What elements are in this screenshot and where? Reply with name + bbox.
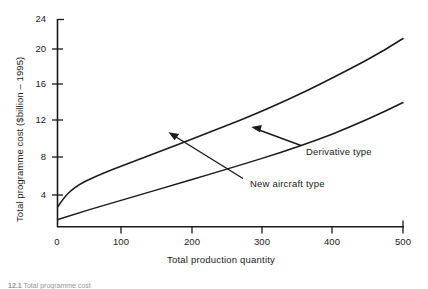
y-tick-label-4: 4: [24, 190, 46, 200]
y-axis-title: Total programme cost ($billion – 1995): [14, 57, 25, 222]
series-label-new-aircraft-type: New aircraft type: [250, 178, 325, 189]
series-line-derivative-type: [58, 103, 403, 220]
y-tick-label-8: 8: [24, 152, 46, 162]
figure-caption-number: 12.1: [8, 282, 22, 289]
x-tick-label-500: 500: [388, 237, 418, 247]
x-tick-label-100: 100: [106, 237, 136, 247]
x-tick-label-0: 0: [42, 237, 72, 247]
figure-caption: 12.1 Total programme cost: [8, 282, 91, 289]
x-tick-label-300: 300: [247, 237, 277, 247]
annotation-arrow-derivative-type: [251, 125, 301, 146]
annotation-arrow-new-aircraft-type: [169, 132, 244, 178]
series-line-new-aircraft-type: [58, 39, 403, 207]
x-axis-title: Total production quantity: [167, 254, 275, 265]
figure-caption-text: Total programme cost: [23, 282, 90, 289]
y-tick-label-20: 20: [24, 44, 46, 54]
x-tick-label-400: 400: [317, 237, 347, 247]
series-label-derivative-type: Derivative type: [306, 146, 372, 157]
y-tick-label-12: 12: [24, 115, 46, 125]
y-tick-label-24: 24: [24, 14, 46, 24]
x-tick-label-200: 200: [177, 237, 207, 247]
y-tick-label-16: 16: [24, 79, 46, 89]
